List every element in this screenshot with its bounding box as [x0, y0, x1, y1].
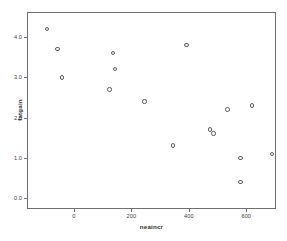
scatter-plot-figure: 0.01.02.03.04.0 0200400600 neaincr fatga… — [0, 0, 287, 241]
data-point — [113, 67, 117, 71]
x-tick-mark — [131, 208, 132, 212]
data-point — [184, 43, 188, 47]
data-point — [225, 107, 229, 111]
x-axis-title: neaincr — [27, 223, 276, 230]
y-tick-label: 0.0 — [14, 195, 22, 201]
data-point — [107, 87, 111, 91]
x-tick-mark — [246, 208, 247, 212]
y-tick-label: 4.0 — [14, 34, 22, 40]
y-tick-mark — [24, 37, 28, 38]
data-point — [238, 156, 242, 160]
data-point — [55, 47, 59, 51]
x-tick-label: 0 — [72, 213, 75, 219]
y-tick-mark — [24, 118, 28, 119]
y-tick-label: 3.0 — [14, 74, 22, 80]
data-point — [45, 27, 49, 31]
y-axis-title: fatgain — [16, 99, 23, 121]
data-point — [111, 51, 115, 55]
plot-area-frame: 0.01.02.03.04.0 0200400600 — [27, 12, 276, 209]
y-tick-mark — [24, 158, 28, 159]
data-point — [238, 180, 242, 184]
y-tick-mark — [24, 198, 28, 199]
data-point — [211, 131, 215, 135]
data-point — [142, 99, 146, 103]
x-tick-label: 400 — [184, 213, 194, 219]
data-point — [171, 143, 175, 147]
x-tick-mark — [189, 208, 190, 212]
data-points-layer — [28, 13, 275, 208]
x-tick-label: 200 — [127, 213, 137, 219]
data-point — [270, 152, 274, 156]
y-tick-label: 1.0 — [14, 155, 22, 161]
x-tick-label: 600 — [241, 213, 251, 219]
y-tick-mark — [24, 77, 28, 78]
data-point — [60, 75, 64, 79]
x-tick-mark — [74, 208, 75, 212]
data-point — [250, 103, 254, 107]
